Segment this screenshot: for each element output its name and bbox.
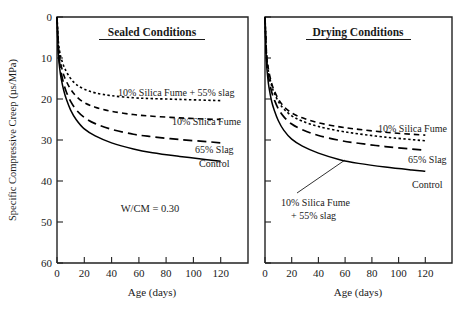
y-tick-10: 10 bbox=[41, 52, 53, 64]
x-tick-80-right: 80 bbox=[366, 267, 378, 279]
right-x-axis-title: Age (days) bbox=[334, 286, 383, 299]
right-label-slag: 65% Slag bbox=[408, 154, 447, 165]
x-tick-60: 60 bbox=[133, 267, 145, 279]
y-tick-40: 40 bbox=[41, 175, 53, 187]
y-tick-30: 30 bbox=[41, 134, 53, 146]
left-label-slag: 65% Slag bbox=[195, 144, 234, 155]
right-annotation-line2: + 55% slag bbox=[291, 210, 336, 221]
x-tick-60-right: 60 bbox=[340, 267, 352, 279]
y-axis-title: Specific Compressive Creep (µs/MPa) bbox=[7, 58, 19, 221]
right-annotation-line1: 10% Silica Fume bbox=[281, 197, 350, 208]
x-tick-100: 100 bbox=[185, 267, 202, 279]
left-x-axis-title: Age (days) bbox=[128, 286, 177, 299]
chart-svg: Specific Compressive Creep (µs/MPa) 0 10… bbox=[0, 0, 474, 316]
x-tick-120-right: 120 bbox=[417, 267, 434, 279]
x-tick-100-right: 100 bbox=[390, 267, 407, 279]
x-tick-40: 40 bbox=[106, 267, 118, 279]
x-tick-80: 80 bbox=[161, 267, 173, 279]
y-tick-50: 50 bbox=[41, 216, 53, 228]
y-tick-20: 20 bbox=[41, 93, 53, 105]
x-tick-20-right: 20 bbox=[286, 267, 298, 279]
x-tick-120: 120 bbox=[212, 267, 229, 279]
x-tick-40-right: 40 bbox=[313, 267, 325, 279]
right-label-silica-fume: 10% Silica Fume bbox=[378, 123, 447, 134]
right-label-control: Control bbox=[412, 179, 443, 190]
left-panel-title: Sealed Conditions bbox=[108, 26, 197, 38]
left-label-silica-fume-slag: 10% Silica Fume + 55% slag bbox=[118, 87, 234, 98]
left-label-silica-fume: 10% Silica Fume bbox=[172, 116, 241, 127]
x-tick-20: 20 bbox=[79, 267, 91, 279]
left-note-wcm: W/CM = 0.30 bbox=[121, 203, 180, 214]
x-tick-0-right: 0 bbox=[262, 267, 268, 279]
y-tick-60: 60 bbox=[41, 257, 53, 269]
x-tick-0: 0 bbox=[54, 267, 60, 279]
y-tick-0: 0 bbox=[47, 11, 53, 23]
left-label-control: Control bbox=[199, 158, 230, 169]
creep-chart-figure: Specific Compressive Creep (µs/MPa) 0 10… bbox=[0, 0, 474, 316]
right-panel-title: Drying Conditions bbox=[312, 26, 404, 39]
